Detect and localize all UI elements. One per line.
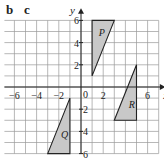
triangle-label-Q: Q — [61, 129, 69, 140]
coordinate-grid: PRQxy−6−4−2266422460 — [0, 0, 164, 160]
y-axis-arrow-icon — [78, 8, 84, 14]
x-tick-label: −2 — [53, 90, 64, 101]
y-tick-label: 4 — [74, 38, 79, 49]
triangle-label-P: P — [98, 27, 105, 38]
x-tick-label: −4 — [31, 90, 42, 101]
x-axis-label: x — [162, 89, 164, 101]
y-tick-label: 6 — [83, 149, 88, 160]
triangle-label-R: R — [128, 99, 135, 110]
y-tick-label: 2 — [74, 60, 79, 71]
y-tick-label: 2 — [83, 104, 88, 115]
origin-label: 0 — [83, 89, 88, 100]
y-tick-label: 6 — [74, 15, 79, 26]
x-tick-label: 6 — [145, 90, 150, 101]
y-axis-label: y — [69, 4, 75, 16]
x-tick-label: −6 — [9, 90, 20, 101]
x-tick-label: 2 — [101, 90, 106, 101]
y-tick-label: 4 — [83, 126, 88, 137]
